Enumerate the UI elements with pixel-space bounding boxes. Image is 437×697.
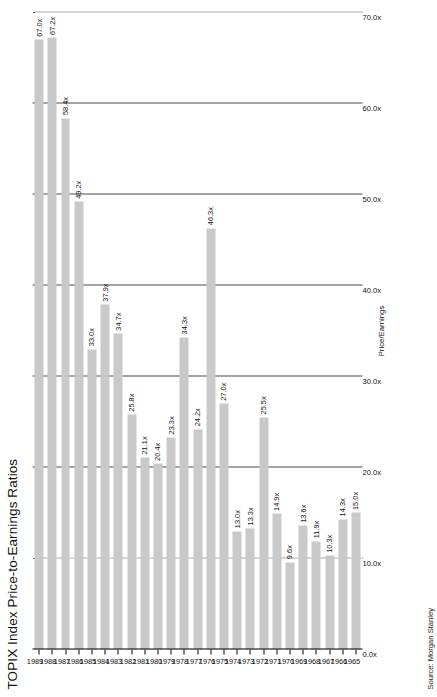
category-tick: 1985 bbox=[85, 649, 98, 689]
bar-value-label: 46.3x bbox=[206, 207, 215, 228]
bar-value-label: 58.4x bbox=[61, 96, 70, 117]
bar-row[interactable]: 67.0x bbox=[32, 12, 45, 649]
bar-row[interactable]: 21.1x bbox=[138, 12, 151, 649]
bar[interactable] bbox=[179, 337, 188, 649]
tick-mark bbox=[342, 649, 343, 654]
bar-row[interactable]: 25.8x bbox=[124, 12, 137, 649]
bar[interactable] bbox=[285, 562, 294, 649]
bar-value-label: 21.1x bbox=[140, 436, 149, 457]
category-tick: 1983 bbox=[111, 649, 124, 689]
bar-value-label: 67.0x bbox=[34, 18, 43, 39]
bar-row[interactable]: 34.3x bbox=[177, 12, 190, 649]
category-tick: 1978 bbox=[177, 649, 190, 689]
bar[interactable] bbox=[259, 417, 268, 649]
bar-row[interactable]: 49.2x bbox=[72, 12, 85, 649]
bar-row[interactable]: 20.4x bbox=[151, 12, 164, 649]
value-tick-label: 70.0x bbox=[362, 12, 381, 21]
bar-row[interactable]: 33.0x bbox=[85, 12, 98, 649]
category-tick: 1966 bbox=[336, 649, 349, 689]
bar[interactable] bbox=[113, 333, 122, 649]
tick-mark bbox=[249, 649, 250, 654]
category-axis: 1989198819871986198519841983198219811980… bbox=[32, 649, 362, 689]
bar-row[interactable]: 14.3x bbox=[336, 12, 349, 649]
bar[interactable] bbox=[47, 37, 56, 649]
tick-mark bbox=[104, 649, 105, 654]
tick-mark bbox=[131, 649, 132, 654]
bar[interactable] bbox=[245, 528, 254, 649]
bar[interactable] bbox=[153, 463, 162, 649]
bar-value-label: 11.9x bbox=[311, 520, 320, 541]
bar-row[interactable]: 46.3x bbox=[204, 12, 217, 649]
bar-value-label: 37.9x bbox=[100, 283, 109, 304]
tick-mark bbox=[78, 649, 79, 654]
tick-mark bbox=[157, 649, 158, 654]
bar[interactable] bbox=[206, 228, 215, 649]
bar-row[interactable]: 58.4x bbox=[58, 12, 71, 649]
bar-row[interactable]: 13.3x bbox=[243, 12, 256, 649]
bar[interactable] bbox=[61, 118, 70, 649]
category-tick: 1988 bbox=[45, 649, 58, 689]
bar-row[interactable]: 34.7x bbox=[111, 12, 124, 649]
tick-mark bbox=[276, 649, 277, 654]
bar-row[interactable]: 27.0x bbox=[217, 12, 230, 649]
tick-mark bbox=[170, 649, 171, 654]
bar[interactable] bbox=[272, 513, 281, 649]
bar[interactable] bbox=[325, 555, 334, 649]
bar[interactable] bbox=[219, 403, 228, 649]
bar[interactable] bbox=[311, 541, 320, 649]
bar[interactable] bbox=[232, 531, 241, 649]
bar-row[interactable]: 24.2x bbox=[190, 12, 203, 649]
bar[interactable] bbox=[351, 513, 360, 650]
bar-row[interactable]: 25.5x bbox=[256, 12, 269, 649]
bar-value-label: 13.3x bbox=[245, 507, 254, 528]
bar[interactable] bbox=[87, 349, 96, 649]
category-tick: 1973 bbox=[243, 649, 256, 689]
bar-row[interactable]: 15.0x bbox=[349, 12, 362, 649]
plot-wrapper: 1989198819871986198519841983198219811980… bbox=[26, 8, 398, 689]
bar-value-label: 67.2x bbox=[47, 16, 56, 37]
tick-mark bbox=[197, 649, 198, 654]
bar[interactable] bbox=[140, 457, 149, 649]
tick-mark bbox=[183, 649, 184, 654]
value-tick-label: 0.0x bbox=[362, 649, 376, 658]
bar-row[interactable]: 14.9x bbox=[270, 12, 283, 649]
tick-mark bbox=[263, 649, 264, 654]
bar[interactable] bbox=[166, 437, 175, 649]
category-tick: 1979 bbox=[164, 649, 177, 689]
category-tick: 1970 bbox=[283, 649, 296, 689]
bar-row[interactable]: 10.3x bbox=[322, 12, 335, 649]
bar-value-label: 34.3x bbox=[179, 316, 188, 337]
bar-row[interactable]: 67.2x bbox=[45, 12, 58, 649]
bar[interactable] bbox=[100, 304, 109, 649]
value-axis-title: Price/Earnings bbox=[376, 305, 385, 356]
bar-row[interactable]: 37.9x bbox=[98, 12, 111, 649]
bar[interactable] bbox=[193, 429, 202, 649]
bar-row[interactable]: 13.6x bbox=[296, 12, 309, 649]
tick-mark bbox=[289, 649, 290, 654]
value-tick-label: 40.0x bbox=[362, 285, 381, 294]
bar[interactable] bbox=[34, 39, 43, 649]
bar[interactable] bbox=[74, 201, 83, 649]
category-tick: 1977 bbox=[190, 649, 203, 689]
bar[interactable] bbox=[338, 519, 347, 649]
value-tick-label: 30.0x bbox=[362, 376, 381, 385]
bar-row[interactable]: 23.3x bbox=[164, 12, 177, 649]
bar-row[interactable]: 11.9x bbox=[309, 12, 322, 649]
bar-row[interactable]: 13.0x bbox=[230, 12, 243, 649]
value-axis: 70.0x60.0x50.0x40.0x30.0x20.0x10.0x0.0x … bbox=[362, 12, 398, 649]
tick-mark bbox=[117, 649, 118, 654]
bar-value-label: 49.2x bbox=[74, 180, 83, 201]
bar-value-label: 20.4x bbox=[153, 442, 162, 463]
tick-mark bbox=[51, 649, 52, 654]
tick-mark bbox=[329, 649, 330, 654]
tick-mark bbox=[38, 649, 39, 654]
bar-series: 67.0x67.2x58.4x49.2x33.0x37.9x34.7x25.8x… bbox=[32, 12, 362, 649]
bar-row[interactable]: 9.6x bbox=[283, 12, 296, 649]
category-tick: 1981 bbox=[138, 649, 151, 689]
bar-value-label: 33.0x bbox=[87, 328, 96, 349]
bar[interactable] bbox=[298, 525, 307, 649]
bar[interactable] bbox=[127, 414, 136, 649]
tick-mark bbox=[144, 649, 145, 654]
category-tick: 1986 bbox=[72, 649, 85, 689]
bar-value-label: 15.0x bbox=[351, 491, 360, 512]
